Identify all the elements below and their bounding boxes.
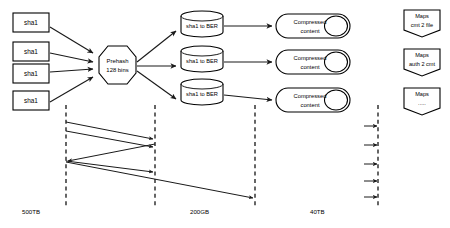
flow-arrow-2 bbox=[66, 131, 153, 147]
input-box-1[interactable]: sha1 bbox=[13, 13, 49, 32]
flow-arrow-3 bbox=[68, 144, 155, 161]
output-node-1-label-line1: Compressed bbox=[294, 19, 327, 25]
map-node-3-label-line1: Maps bbox=[415, 91, 429, 97]
output-node-2-label-line1: Compressed bbox=[294, 55, 327, 61]
edge-store3-output3 bbox=[224, 95, 272, 100]
map-node-1-label-line1: Maps bbox=[415, 13, 429, 19]
store-node-1-label: sha1 to BER bbox=[186, 23, 218, 29]
store-node-3-label: sha1 to BER bbox=[186, 91, 218, 97]
edge-input3-prehash bbox=[50, 69, 93, 72]
input-box-2-label: sha1 bbox=[24, 48, 38, 55]
output-node-2-label-line2: content bbox=[300, 64, 319, 70]
map-node-2-label-line1: Maps bbox=[415, 52, 429, 58]
prehash-label-line2: 128 bins bbox=[106, 67, 128, 73]
diagram-canvas: sha1 sha1 sha1 sha1 Prehash 128 bins bbox=[0, 0, 450, 228]
input-box-3[interactable]: sha1 bbox=[13, 64, 49, 83]
map-node-2-label-line2: auth 2 cmt bbox=[409, 61, 436, 67]
store-node-2-label: sha1 to BER bbox=[186, 58, 218, 64]
edge-prehash-store3 bbox=[137, 71, 176, 99]
output-node-3-label-line1: Compressed bbox=[294, 93, 327, 99]
map-node-1[interactable]: Maps cmt 2 file bbox=[404, 10, 440, 37]
output-node-1-label-line2: content bbox=[300, 28, 319, 34]
output-node-3-label-line2: content bbox=[300, 102, 319, 108]
scale-label-40tb: 40TB bbox=[310, 208, 325, 215]
edge-input2-prehash bbox=[50, 53, 93, 62]
store-node-2[interactable]: sha1 to BER bbox=[181, 46, 223, 72]
input-box-3-label: sha1 bbox=[24, 70, 38, 77]
map-node-1-label-line2: cmt 2 file bbox=[411, 22, 433, 28]
input-box-4-label: sha1 bbox=[24, 97, 38, 104]
flow-arrow-5 bbox=[66, 162, 253, 198]
map-node-3[interactable]: Maps ..... bbox=[404, 88, 440, 115]
store-node-1[interactable]: sha1 to BER bbox=[181, 11, 223, 37]
store-node-3[interactable]: sha1 to BER bbox=[181, 79, 223, 105]
edge-prehash-store1 bbox=[137, 31, 176, 62]
scale-label-500tb: 500TB bbox=[22, 208, 40, 215]
prehash-label-line1: Prehash bbox=[107, 58, 129, 64]
edge-input4-prehash bbox=[50, 77, 93, 102]
prehash-node[interactable]: Prehash 128 bins bbox=[99, 46, 136, 84]
map-node-3-label-line2: ..... bbox=[418, 100, 426, 106]
output-node-3[interactable]: Compressed content bbox=[276, 88, 350, 112]
input-box-1-label: sha1 bbox=[24, 19, 38, 26]
input-box-2[interactable]: sha1 bbox=[13, 42, 49, 61]
pipeline-diagram: sha1 sha1 sha1 sha1 Prehash 128 bins bbox=[0, 0, 450, 228]
map-node-2[interactable]: Maps auth 2 cmt bbox=[404, 49, 440, 76]
scale-label-200gb: 200GB bbox=[190, 208, 209, 215]
input-box-4[interactable]: sha1 bbox=[13, 91, 49, 110]
output-node-1[interactable]: Compressed content bbox=[276, 14, 350, 38]
flow-arrow-1 bbox=[66, 122, 153, 139]
edge-input1-prehash bbox=[50, 27, 93, 53]
output-node-2[interactable]: Compressed content bbox=[276, 50, 350, 74]
